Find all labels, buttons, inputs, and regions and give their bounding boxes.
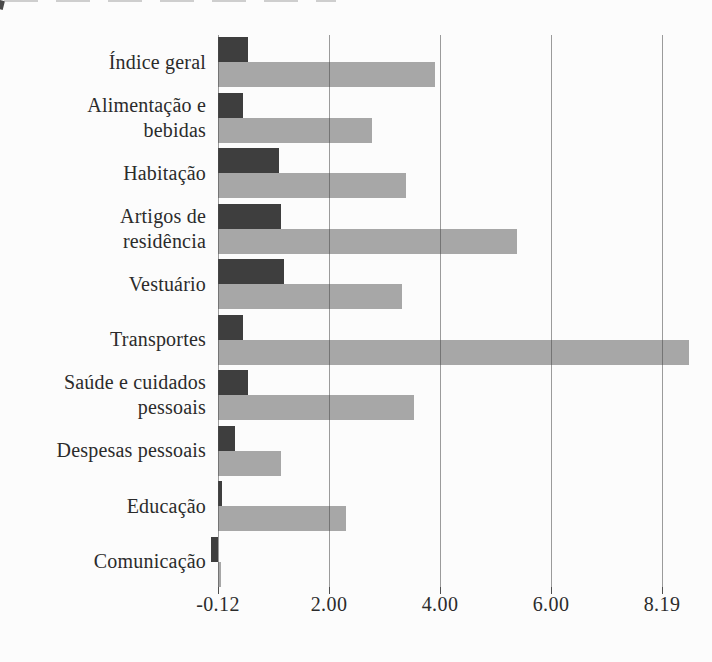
bar-dark [218,370,248,395]
x-axis-tick [440,587,441,594]
x-axis-tick [551,587,552,594]
bar-light [218,451,281,476]
category-label: Comunicação [0,537,206,587]
category-label: Vestuário [0,259,206,309]
x-axis-tick-label: 2.00 [284,593,374,616]
bar-dark [218,93,243,118]
bar-dark [218,204,281,229]
category-label: Alimentação e bebidas [0,93,206,143]
bar-light [218,62,435,87]
category-label: Artigos de residência [0,204,206,254]
x-axis-tick [329,587,330,594]
bar-light [218,173,406,198]
category-label: Índice geral [0,37,206,87]
bar-light [218,118,372,143]
bar-light [218,395,414,420]
bar-dark [218,426,235,451]
x-axis-tick [218,587,219,594]
bar-dark [218,148,279,173]
gridline [440,35,441,587]
gridline [218,35,219,587]
gridline [329,35,330,587]
x-axis-tick-label: 6.00 [506,593,596,616]
bar-light [218,229,517,254]
scan-artifact-line [4,0,336,2]
x-axis-tick [662,587,663,594]
category-label: Saúde e cuidados pessoais [0,370,206,420]
category-label: Educação [0,481,206,531]
bar-light [218,340,689,365]
category-label: Despesas pessoais [0,426,206,476]
bar-dark [218,37,248,62]
bar-dark [218,259,284,284]
bar-light [218,284,402,309]
bar-dark [218,315,243,340]
bar-light [218,506,346,531]
gridline [662,35,663,587]
category-label: Transportes [0,315,206,365]
scanned-bar-chart-page: Índice geralAlimentação e bebidasHabitaç… [0,0,712,662]
x-axis-tick-label: 8.19 [617,593,707,616]
x-axis-tick-label: -0.12 [173,593,263,616]
bar-dark [211,537,218,562]
x-axis-tick-label: 4.00 [395,593,485,616]
category-label: Habitação [0,148,206,198]
gridline [551,35,552,587]
